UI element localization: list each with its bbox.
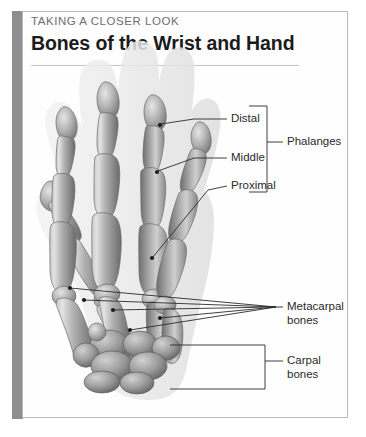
label-metacarpal-bones-line1: Metacarpal — [287, 300, 344, 314]
leader-dot-metacarpal-4 — [158, 316, 162, 320]
label-distal: Distal — [231, 112, 260, 126]
leader-proximal — [208, 186, 227, 190]
figure-bones-of-wrist-and-hand: TAKING A CLOSER LOOK Bones of the Wrist … — [0, 0, 366, 437]
label-carpal-bones-line1: Carpal — [287, 354, 321, 368]
leader-dot-metacarpal-2 — [82, 298, 86, 302]
label-metacarpal-bones: Metacarpal bones — [287, 300, 344, 327]
label-carpal-bones-line2: bones — [287, 368, 321, 382]
label-phalanges: Phalanges — [287, 135, 341, 149]
leader-dot-metacarpal-3 — [111, 308, 115, 312]
label-carpal-bones: Carpal bones — [287, 354, 321, 381]
leader-dot-metacarpal-5 — [128, 328, 132, 332]
leader-dot-metacarpal-1 — [68, 286, 72, 290]
label-middle: Middle — [231, 151, 265, 165]
label-proximal: Proximal — [231, 179, 276, 193]
label-metacarpal-bones-line2: bones — [287, 314, 344, 328]
